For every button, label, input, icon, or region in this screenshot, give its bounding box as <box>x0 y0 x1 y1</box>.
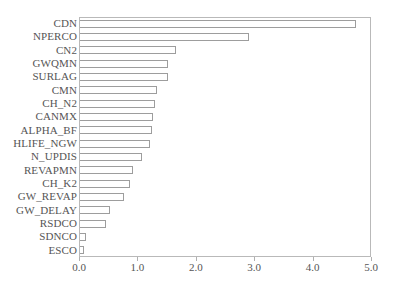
x-tick-label: 1.0 <box>131 261 145 273</box>
bar <box>80 220 106 228</box>
bar-container <box>80 190 124 203</box>
bar <box>80 100 155 108</box>
bar-container <box>80 84 157 97</box>
bar-row: RSDCO <box>0 217 396 230</box>
bar-row: REVAPMN <box>0 164 396 177</box>
bar-container <box>80 110 153 123</box>
bar-container <box>80 70 168 83</box>
bar-category-label: N_UPDIS <box>31 150 77 163</box>
bar <box>80 180 130 188</box>
bar-category-label: HLIFE_NGW <box>13 137 77 150</box>
bar-container <box>80 137 150 150</box>
bar-category-label: SURLAG <box>32 70 77 83</box>
bar-row: ALPHA_BF <box>0 124 396 137</box>
bar-category-label: CANMX <box>36 110 77 123</box>
bar-container <box>80 244 84 257</box>
bar <box>80 60 168 68</box>
x-tick-label: 2.0 <box>189 261 203 273</box>
bar-row: CH_K2 <box>0 177 396 190</box>
bar-container <box>80 177 130 190</box>
bar-container <box>80 150 142 163</box>
bar-category-label: GWQMN <box>33 57 78 70</box>
x-tick-label: 3.0 <box>247 261 261 273</box>
bar-row: SURLAG <box>0 70 396 83</box>
bar-category-label: ESCO <box>48 244 77 257</box>
bar <box>80 140 150 148</box>
bar-category-label: SDNCO <box>39 230 77 243</box>
bar-category-label: ALPHA_BF <box>21 124 77 137</box>
bar-row: N_UPDIS <box>0 150 396 163</box>
bar-container <box>80 230 86 243</box>
bar-row: GW_REVAP <box>0 190 396 203</box>
bar-category-label: REVAPMN <box>24 164 77 177</box>
bar <box>80 20 356 28</box>
bar-container <box>80 204 110 217</box>
bar-category-label: CMN <box>52 84 77 97</box>
bar-container <box>80 217 106 230</box>
category-rows: CDNNPERCOCN2GWQMNSURLAGCMNCH_N2CANMXALPH… <box>0 17 396 257</box>
x-tick-label: 4.0 <box>306 261 320 273</box>
x-axis-tick-labels: 0.01.02.03.04.05.0 <box>0 261 396 279</box>
bar-row: CANMX <box>0 110 396 123</box>
bar-category-label: NPERCO <box>33 30 77 43</box>
bar-row: NPERCO <box>0 30 396 43</box>
bar-container <box>80 17 356 30</box>
bar <box>80 166 133 174</box>
bar <box>80 46 176 54</box>
bar <box>80 233 86 241</box>
bar-container <box>80 30 249 43</box>
x-tick-label: 0.0 <box>72 261 86 273</box>
bar-category-label: GW_REVAP <box>18 190 77 203</box>
bar-category-label: GW_DELAY <box>16 204 77 217</box>
bar-row: GWQMN <box>0 57 396 70</box>
bar <box>80 246 84 254</box>
bar-container <box>80 97 155 110</box>
bar <box>80 126 152 134</box>
bar-row: ESCO <box>0 244 396 257</box>
bar <box>80 206 110 214</box>
bar-row: CMN <box>0 84 396 97</box>
bar-row: SDNCO <box>0 230 396 243</box>
bar-category-label: CH_K2 <box>42 177 77 190</box>
bar-chart: CDNNPERCOCN2GWQMNSURLAGCMNCH_N2CANMXALPH… <box>0 0 396 299</box>
bar-category-label: CDN <box>53 17 77 30</box>
bar-row: HLIFE_NGW <box>0 137 396 150</box>
bar <box>80 86 157 94</box>
bar-category-label: CN2 <box>56 44 77 57</box>
bar-row: CN2 <box>0 44 396 57</box>
bar <box>80 153 142 161</box>
bar <box>80 33 249 41</box>
bar-container <box>80 164 133 177</box>
bar-row: CDN <box>0 17 396 30</box>
bar-row: GW_DELAY <box>0 204 396 217</box>
bar <box>80 73 168 81</box>
x-tick-label: 5.0 <box>364 261 378 273</box>
bar <box>80 113 153 121</box>
bar-container <box>80 44 176 57</box>
bar-category-label: RSDCO <box>40 217 77 230</box>
bar-container <box>80 57 168 70</box>
bar-row: CH_N2 <box>0 97 396 110</box>
bar-container <box>80 124 152 137</box>
bar <box>80 193 124 201</box>
bar-category-label: CH_N2 <box>42 97 77 110</box>
